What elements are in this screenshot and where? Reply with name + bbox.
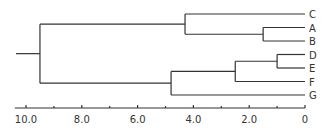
leaf-label-e: E (309, 63, 315, 74)
x-tick-label: 8.0 (74, 114, 90, 125)
leaf-label-d: D (309, 50, 317, 61)
dendrogram-plot: CABDEFG10.08.06.04.02.00 (0, 0, 329, 131)
x-tick-label: 4.0 (185, 114, 201, 125)
leaf-label-a: A (309, 23, 316, 34)
leaf-label-b: B (309, 36, 316, 47)
leaf-label-c: C (309, 9, 316, 20)
x-tick-label: 6.0 (130, 114, 146, 125)
dendrogram-figure: CABDEFG10.08.06.04.02.00 (0, 0, 329, 131)
x-tick-label: 2.0 (241, 114, 257, 125)
leaf-label-g: G (309, 90, 317, 101)
leaf-label-f: F (309, 77, 315, 88)
x-tick-label: 10.0 (15, 114, 37, 125)
x-tick-label: 0 (302, 114, 308, 125)
